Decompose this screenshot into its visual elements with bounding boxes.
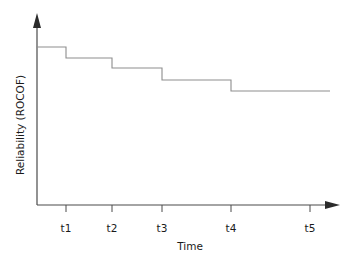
x-tick-label-t3: t3: [157, 222, 168, 234]
x-tick-label-t4: t4: [226, 222, 237, 234]
chart-figure: t1 t2 t3 t4 t5 Time Reliability (ROCOF): [0, 0, 359, 257]
chart-background: [0, 0, 359, 257]
x-axis-title: Time: [176, 240, 203, 252]
x-tick-label-t5: t5: [305, 222, 316, 234]
y-axis-title: Reliability (ROCOF): [14, 75, 26, 175]
x-tick-label-t1: t1: [61, 222, 72, 234]
x-tick-label-t2: t2: [107, 222, 118, 234]
reliability-rocof-step-chart: t1 t2 t3 t4 t5 Time Reliability (ROCOF): [0, 0, 359, 257]
